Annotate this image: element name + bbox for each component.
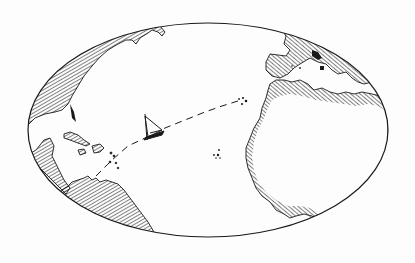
sailing-ship bbox=[144, 114, 164, 140]
north-america-coast bbox=[28, 22, 165, 125]
map-drawing bbox=[0, 0, 415, 263]
voyage-route bbox=[96, 101, 238, 176]
cape-verde-islands bbox=[213, 149, 221, 159]
caribbean-islands bbox=[64, 132, 119, 169]
central-america-coast bbox=[28, 138, 70, 194]
map-illustration bbox=[0, 0, 415, 263]
canary-islands bbox=[238, 97, 247, 105]
